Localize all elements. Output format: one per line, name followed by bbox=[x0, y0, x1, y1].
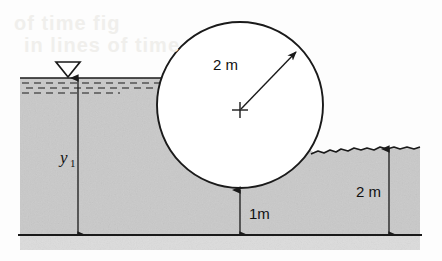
y1-label-symbol: y bbox=[58, 148, 68, 167]
water-level-triangle-shape bbox=[56, 62, 80, 77]
bed-substrate-fill bbox=[20, 236, 420, 250]
figure-canvas: of time fig in lines of time bbox=[0, 0, 442, 261]
water-level-triangle bbox=[56, 62, 80, 77]
diagram-svg: 2 m y 1 1m 2 m bbox=[0, 0, 442, 261]
channel-bed bbox=[18, 235, 422, 250]
downstream-depth-label: 2 m bbox=[356, 183, 381, 200]
gap-label: 1m bbox=[249, 205, 270, 222]
circle-cylinder: 2 m bbox=[157, 22, 323, 188]
y1-label-subscript: 1 bbox=[70, 157, 76, 169]
radius-label: 2 m bbox=[213, 56, 238, 73]
